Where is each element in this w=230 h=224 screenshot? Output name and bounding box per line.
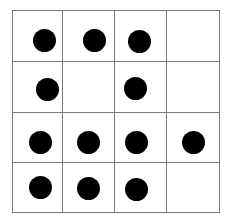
grid-cell <box>166 61 220 113</box>
dot-icon <box>77 177 100 200</box>
grid-cell <box>166 162 220 213</box>
grid-cell <box>12 112 63 163</box>
dot-icon <box>125 178 148 201</box>
dot-icon <box>83 29 106 52</box>
dot-icon <box>33 29 56 52</box>
dot-icon <box>29 131 52 154</box>
grid-cell <box>62 162 115 213</box>
dot-icon <box>125 131 148 154</box>
dot-icon <box>128 30 151 53</box>
grid-cell <box>12 61 63 113</box>
grid-cell <box>12 162 63 213</box>
dot-icon <box>29 176 52 199</box>
grid-cell <box>114 61 167 113</box>
dot-icon <box>77 131 100 154</box>
dot-icon <box>124 77 147 100</box>
grid-cell <box>166 10 220 62</box>
grid-cell <box>12 10 63 62</box>
dot-grid <box>12 10 219 212</box>
grid-cell <box>114 112 167 163</box>
grid-cell <box>62 61 115 113</box>
grid-cell <box>114 162 167 213</box>
grid-cell <box>62 112 115 163</box>
grid-cell <box>166 112 220 163</box>
grid-cell <box>114 10 167 62</box>
grid-cell <box>62 10 115 62</box>
dot-icon <box>182 131 205 154</box>
dot-icon <box>36 78 59 101</box>
